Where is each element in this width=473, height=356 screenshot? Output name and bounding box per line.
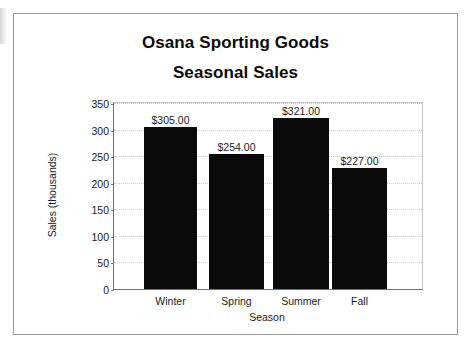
chart-title-line-2: Seasonal Sales (14, 58, 457, 88)
gridline-350: 350 (114, 103, 422, 104)
ytick-mark-100 (111, 237, 114, 238)
ytick-mark-250 (111, 157, 114, 158)
bar-winter[interactable]: $305.00 Winter (144, 127, 197, 289)
ytick-mark-200 (111, 184, 114, 185)
scan-edge-artifact (0, 8, 7, 44)
bar-fall[interactable]: $227.00 Fall (332, 168, 387, 289)
y-axis-title: Sales (thousands) (46, 102, 60, 288)
ytick-mark-0 (111, 290, 114, 291)
ytick-label-100: 100 (91, 231, 109, 243)
ytick-mark-300 (111, 131, 114, 132)
chart-title-line-1: Osana Sporting Goods (14, 28, 457, 58)
ytick-label-50: 50 (97, 257, 109, 269)
ytick-mark-150 (111, 210, 114, 211)
gridline-0-baseline: 0 (114, 289, 422, 290)
ytick-label-200: 200 (91, 178, 109, 190)
xtick-label-spring: Spring (221, 295, 251, 307)
plot-area: 350 300 250 200 150 100 50 0 (113, 102, 423, 290)
xtick-label-fall: Fall (351, 295, 368, 307)
ytick-label-300: 300 (91, 125, 109, 137)
x-axis-title: Season (113, 311, 421, 323)
xtick-label-summer: Summer (281, 295, 321, 307)
ytick-mark-50 (111, 263, 114, 264)
ytick-label-250: 250 (91, 151, 109, 163)
ytick-mark-350 (111, 104, 114, 105)
ytick-label-0: 0 (103, 284, 109, 296)
bar-value-winter: $305.00 (152, 114, 190, 126)
bar-summer[interactable]: $321.00 Summer (273, 118, 329, 289)
bar-value-spring: $254.00 (218, 141, 256, 153)
bar-value-summer: $321.00 (282, 105, 320, 117)
ytick-label-150: 150 (91, 204, 109, 216)
ytick-label-350: 350 (91, 98, 109, 110)
bar-spring[interactable]: $254.00 Spring (209, 154, 264, 289)
xtick-label-winter: Winter (155, 295, 185, 307)
chart-title: Osana Sporting Goods Seasonal Sales (14, 28, 457, 88)
chart-frame: Osana Sporting Goods Seasonal Sales Sale… (13, 13, 458, 335)
bar-value-fall: $227.00 (341, 155, 379, 167)
